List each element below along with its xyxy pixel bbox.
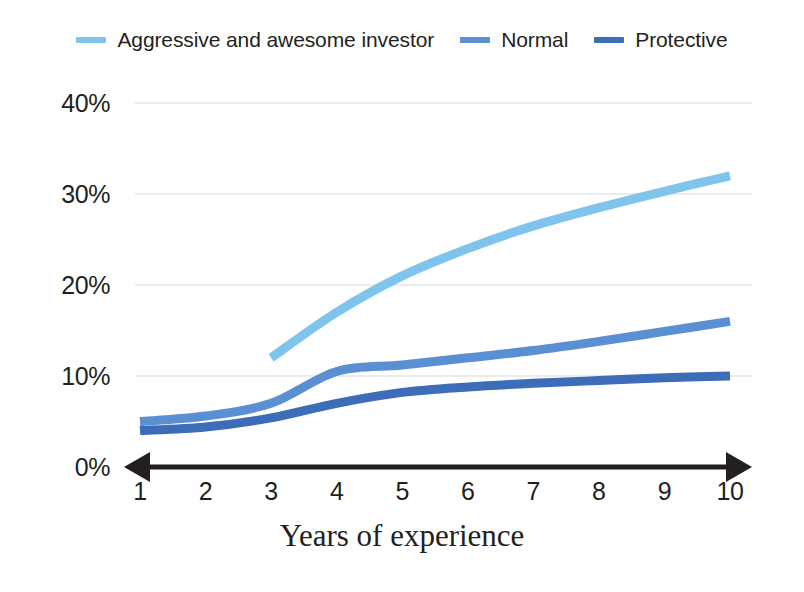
x-axis-tick-label: 6 <box>445 478 491 504</box>
x-axis-tick-label: 8 <box>576 478 622 504</box>
y-axis-tick-label: 10% <box>18 363 110 389</box>
x-axis-tick-label: 7 <box>510 478 556 504</box>
series-lines <box>140 176 730 431</box>
series-line <box>140 321 730 421</box>
series-line <box>140 376 730 431</box>
y-axis-tick-label: 40% <box>18 90 110 116</box>
x-axis-tick-label: 10 <box>707 478 753 504</box>
x-axis-tick-label: 4 <box>314 478 360 504</box>
y-axis-tick-label: 30% <box>18 181 110 207</box>
y-axis-tick-label: 20% <box>18 272 110 298</box>
x-axis-title: Years of experience <box>0 516 804 556</box>
x-axis-tick-label: 1 <box>117 478 163 504</box>
x-axis-tick-label: 3 <box>248 478 294 504</box>
x-axis-tick-label: 2 <box>183 478 229 504</box>
x-axis-tick-label: 9 <box>641 478 687 504</box>
line-chart: Aggressive and awesome investor Normal P… <box>0 0 804 592</box>
y-axis-tick-label: 0% <box>18 454 110 480</box>
x-axis-tick-label: 5 <box>379 478 425 504</box>
